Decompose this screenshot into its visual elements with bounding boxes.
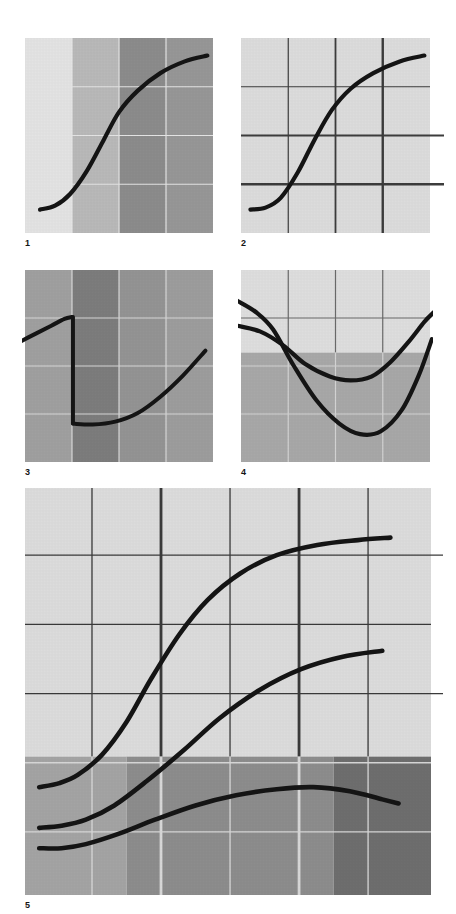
panel-4-plot	[241, 270, 430, 462]
panel-5-plot	[25, 488, 443, 895]
panel-3	[25, 270, 213, 462]
figure-page: 12345	[0, 0, 456, 914]
panel-2-caption: 2	[241, 239, 246, 248]
panel-5-top-field	[25, 488, 431, 757]
panel-1-plot	[25, 38, 213, 233]
panel-5	[25, 488, 431, 895]
panel-2	[241, 38, 430, 233]
panel-2-plot	[241, 38, 444, 233]
panel-5-background	[25, 488, 431, 895]
panel-1-caption: 1	[25, 239, 30, 248]
panel-4	[241, 270, 430, 462]
panel-5-caption: 5	[25, 901, 30, 910]
panel-5-bottom-band-2	[230, 757, 334, 895]
panel-3-caption: 3	[25, 468, 30, 477]
panel-4-caption: 4	[241, 468, 246, 477]
panel-1	[25, 38, 213, 233]
panel-5-bottom-band-3	[334, 757, 431, 895]
panel-3-plot	[25, 270, 213, 462]
